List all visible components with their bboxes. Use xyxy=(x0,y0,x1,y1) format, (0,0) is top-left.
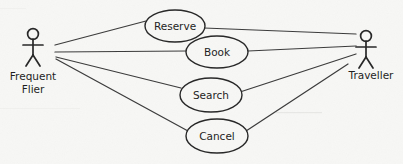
actor-frequent-flier[interactable]: Frequent Flier xyxy=(10,29,56,95)
actor-traveller-leg-left xyxy=(359,57,366,68)
actor-frequent-flier-leg-right xyxy=(33,55,40,66)
use-case-search[interactable]: Search xyxy=(180,78,242,112)
use-case-cancel-label: Cancel xyxy=(199,130,235,142)
use-case-cancel[interactable]: Cancel xyxy=(186,119,248,153)
actor-frequent-flier-head-icon xyxy=(28,29,39,40)
association-search-traveller[interactable] xyxy=(240,54,356,92)
use-case-book-label: Book xyxy=(204,46,231,58)
association-book-traveller[interactable] xyxy=(248,46,356,51)
use-case-search-label: Search xyxy=(193,89,229,101)
association-flier-reserve[interactable] xyxy=(55,21,146,45)
actor-frequent-flier-leg-left xyxy=(26,55,33,66)
association-reserve-traveller[interactable] xyxy=(204,28,356,34)
use-case-reserve[interactable]: Reserve xyxy=(145,10,205,42)
association-flier-cancel[interactable] xyxy=(56,59,188,131)
actor-traveller[interactable]: Traveller xyxy=(348,31,395,81)
association-flier-search[interactable] xyxy=(56,57,181,88)
actor-traveller-head-icon xyxy=(361,31,372,42)
actor-traveller-label: Traveller xyxy=(348,69,395,81)
actor-frequent-flier-label-line2: Flier xyxy=(22,83,45,95)
actor-frequent-flier-label-line1: Frequent xyxy=(10,70,56,82)
use-case-diagram-svg: Reserve Book Search Cancel Frequent Flie… xyxy=(0,0,403,164)
use-case-diagram-canvas: Reserve Book Search Cancel Frequent Flie… xyxy=(0,0,403,164)
use-case-book[interactable]: Book xyxy=(186,36,248,68)
use-case-reserve-label: Reserve xyxy=(154,20,196,32)
actor-traveller-leg-right xyxy=(366,57,373,68)
association-flier-book[interactable] xyxy=(55,51,187,52)
